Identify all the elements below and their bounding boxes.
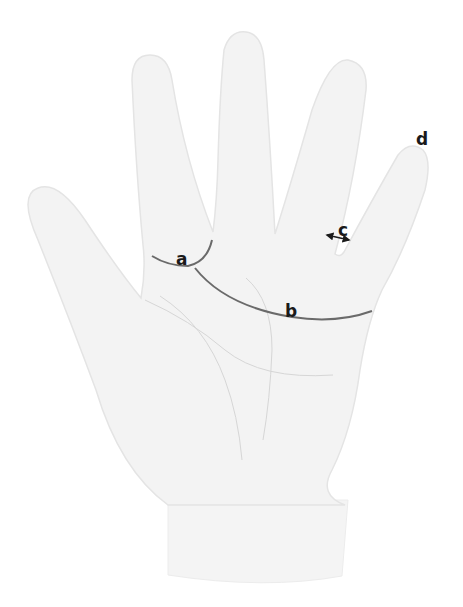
label-b: b xyxy=(285,301,297,321)
label-c: c xyxy=(338,220,348,240)
wrist xyxy=(168,500,348,583)
hand-diagram: a b c d xyxy=(0,0,463,607)
label-d: d xyxy=(416,129,428,149)
hand-silhouette xyxy=(28,32,428,505)
label-a: a xyxy=(176,249,187,269)
